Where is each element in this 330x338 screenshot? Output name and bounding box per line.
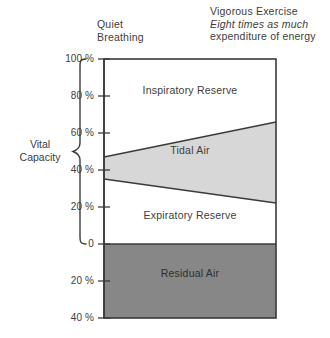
y-tick-label-80: 80 % [50, 91, 94, 101]
vital-capacity-line1: Vital [12, 138, 68, 151]
region-residual-air [104, 244, 276, 318]
y-tick-label-100: 100 % [50, 54, 94, 64]
y-tick-label-neg40: 40 % [50, 313, 94, 323]
y-tick-label-20: 20 % [50, 202, 94, 212]
label-expiratory-reserve: Expiratory Reserve [104, 209, 276, 221]
y-tick-label-neg20: 20 % [50, 276, 94, 286]
label-inspiratory-reserve: Inspiratory Reserve [104, 84, 276, 96]
vital-capacity-label: Vital Capacity [12, 138, 68, 163]
y-tick-label-0: 0 [50, 239, 94, 249]
header-vigorous-exercise: Vigorous Exercise Eight times as much ex… [210, 5, 316, 43]
label-residual-air: Residual Air [104, 267, 276, 279]
y-tick-label-60: 60 % [50, 128, 94, 138]
vital-capacity-line2: Capacity [12, 151, 68, 164]
header-quiet-line2: Breathing [97, 31, 144, 44]
y-tick-label-40: 40 % [50, 165, 94, 175]
header-vigorous-line2: Eight times as much [210, 18, 316, 31]
header-quiet-breathing: Quiet Breathing [97, 18, 144, 43]
vital-capacity-brace [73, 59, 86, 244]
label-tidal-air: Tidal Air [104, 144, 276, 156]
header-quiet-line1: Quiet [97, 18, 144, 31]
header-vigorous-line3: expenditure of energy [210, 30, 316, 43]
header-vigorous-line1: Vigorous Exercise [210, 5, 316, 18]
